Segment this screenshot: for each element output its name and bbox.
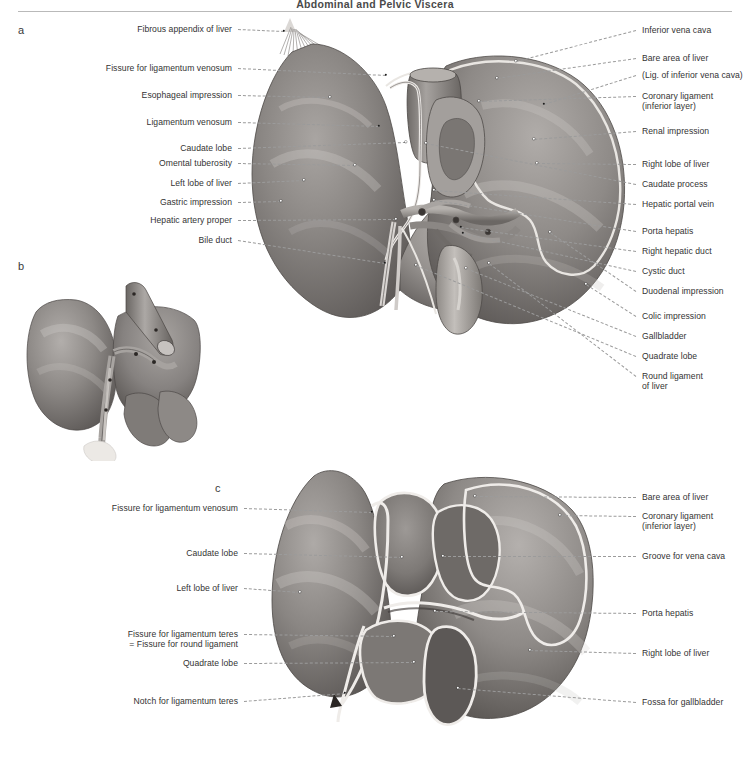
panel-a-right-label-14: Gallbladder: [642, 331, 687, 342]
panel-letter-b: b: [18, 260, 24, 272]
panel-a-left-label-6: Left lobe of liver: [170, 178, 232, 189]
liver-illustration-b: [22, 276, 202, 461]
panel-a-right-label-16: Round ligament: [642, 371, 703, 382]
panel-a-right-label-6: Right lobe of liver: [642, 159, 709, 170]
panel-a-right-label-1: Bare area of liver: [642, 53, 708, 64]
panel-c-left-label-4: = Fissure for round ligament: [129, 639, 238, 650]
panel-letter-a: a: [18, 24, 24, 36]
panel-a-right-label-15: Quadrate lobe: [642, 351, 697, 362]
panel-a-left-label-7: Gastric impression: [160, 197, 232, 208]
panel-a-left-label-1: Fissure for ligamentum venosum: [106, 63, 232, 74]
panel-a-left-label-8: Hepatic artery proper: [150, 215, 232, 226]
liver-illustration-a: [250, 14, 630, 379]
panel-a-right-label-13: Colic impression: [642, 311, 706, 322]
panel-a-right-label-4: (inferior layer): [642, 101, 696, 112]
panel-c-right-label-4: Porta hepatis: [642, 608, 693, 619]
atlas-page: Abdominal and Pelvic Viscera: [0, 0, 750, 767]
panel-c-left-label-5: Quadrate lobe: [183, 658, 238, 669]
header-rule: [18, 11, 732, 12]
running-head: Abdominal and Pelvic Viscera: [0, 0, 750, 10]
panel-a-right-label-17: of liver: [642, 381, 668, 392]
panel-a-left-label-9: Bile duct: [199, 235, 232, 246]
panel-c-left-label-6: Notch for ligamentum teres: [134, 696, 238, 707]
panel-c-right-label-3: Groove for vena cava: [642, 551, 725, 562]
panel-a-right-label-2: (Lig. of inferior vena cava): [642, 70, 743, 81]
panel-a-right-label-3: Coronary ligament: [642, 91, 713, 102]
panel-c-right-leader-3: [443, 556, 636, 557]
panel-a-right-label-0: Inferior vena cava: [642, 25, 711, 36]
panel-a-left-label-5: Omental tuberosity: [159, 158, 232, 169]
panel-a-right-label-9: Porta hepatis: [642, 226, 693, 237]
panel-c-left-label-0: Fissure for ligamentum venosum: [112, 503, 238, 514]
panel-c-right-label-1: Coronary ligament: [642, 511, 713, 522]
panel-a-right-label-12: Duodenal impression: [642, 286, 724, 297]
panel-c-right-label-0: Bare area of liver: [642, 492, 708, 503]
panel-letter-c: c: [215, 482, 221, 494]
panel-c-right-label-5: Right lobe of liver: [642, 648, 709, 659]
panel-a-left-label-0: Fibrous appendix of liver: [137, 24, 232, 35]
panel-c-left-label-3: Fissure for ligamentum teres: [128, 629, 238, 640]
panel-c-left-label-1: Caudate lobe: [186, 548, 238, 559]
panel-a-right-label-8: Hepatic portal vein: [642, 199, 714, 210]
panel-c-right-label-6: Fossa for gallbladder: [642, 697, 723, 708]
liver-illustration-c: [268, 466, 598, 746]
panel-a-right-label-7: Caudate process: [642, 179, 708, 190]
panel-a-left-label-2: Esophageal impression: [142, 90, 232, 101]
panel-c-left-label-2: Left lobe of liver: [176, 583, 238, 594]
panel-a-right-label-11: Cystic duct: [642, 266, 685, 277]
panel-c-right-label-2: (inferior layer): [642, 521, 696, 532]
panel-a-right-label-5: Renal impression: [642, 126, 709, 137]
panel-a-right-label-10: Right hepatic duct: [642, 246, 712, 257]
panel-a-left-label-3: Ligamentum venosum: [147, 117, 232, 128]
panel-a-left-label-4: Caudate lobe: [180, 143, 232, 154]
